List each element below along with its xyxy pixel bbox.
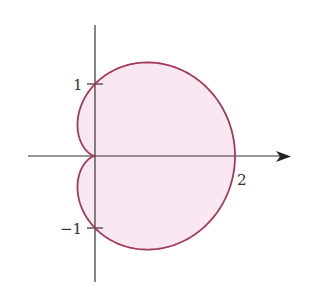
y-tick-label-1: 1: [73, 76, 83, 94]
x-tick-label-2: 2: [237, 171, 247, 189]
y-tick-label-neg1: −1: [60, 220, 82, 238]
cardioid-plot: 1 −1 2: [0, 0, 319, 303]
